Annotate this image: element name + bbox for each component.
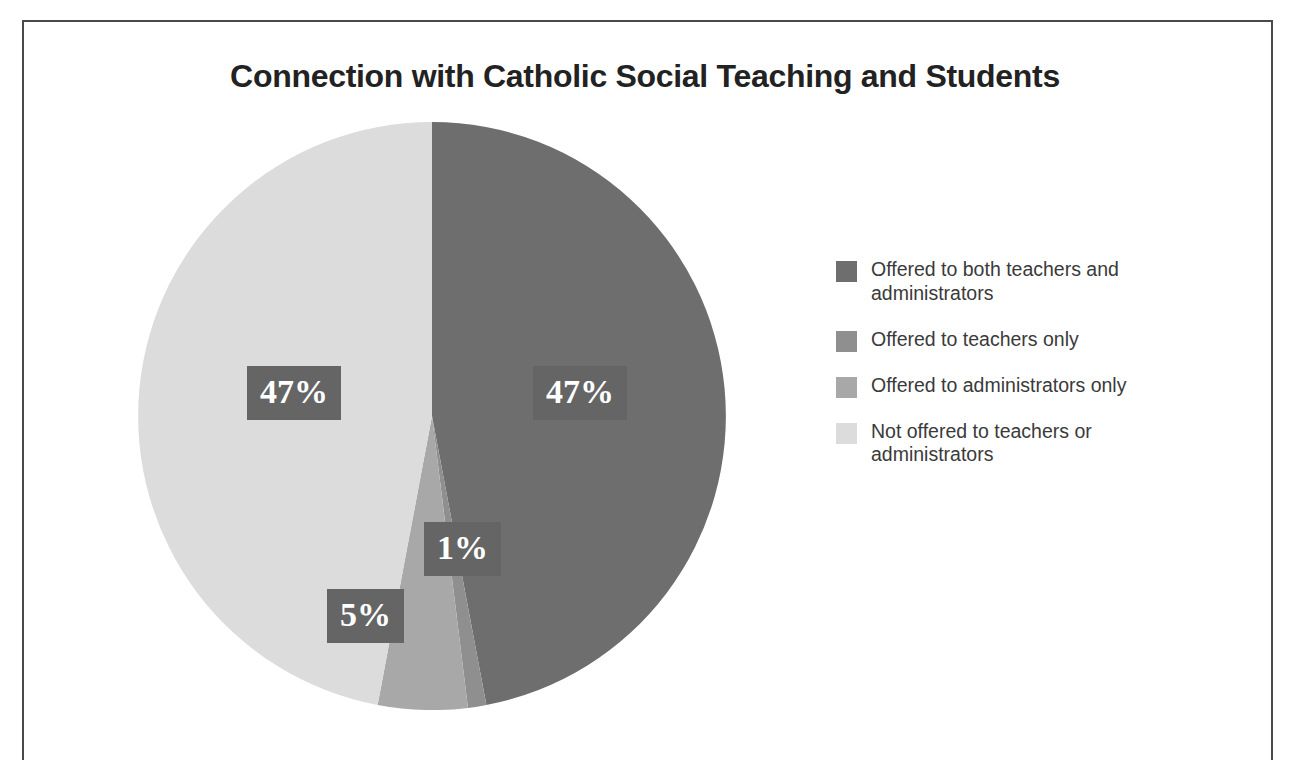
pie-chart-svg [138,122,726,710]
legend-item-label: Offered to administrators only [871,374,1126,398]
legend-swatch-icon [836,331,857,352]
legend-item-offered-to-teachers-only[interactable]: Offered to teachers only [836,328,1236,352]
legend-swatch-icon [836,423,857,444]
legend-swatch-icon [836,261,857,282]
legend-swatch-icon [836,377,857,398]
legend-item-not-offered[interactable]: Not offered to teachers or administrator… [836,420,1236,468]
pie-data-label-offered-to-administrators-only: 5% [327,589,404,643]
legend-item-offered-to-both[interactable]: Offered to both teachers and administrat… [836,258,1236,306]
chart-title: Connection with Catholic Social Teaching… [0,58,1290,95]
pie-chart [138,122,726,710]
legend-item-label: Offered to both teachers and administrat… [871,258,1171,306]
pie-data-label-not-offered: 47% [247,366,341,420]
pie-data-label-offered-to-both: 47% [533,366,627,420]
legend-item-label: Offered to teachers only [871,328,1079,352]
legend-item-offered-to-administrators-only[interactable]: Offered to administrators only [836,374,1236,398]
pie-data-label-offered-to-teachers-only: 1% [424,522,501,576]
chart-legend: Offered to both teachers and administrat… [836,258,1236,489]
legend-item-label: Not offered to teachers or administrator… [871,420,1171,468]
